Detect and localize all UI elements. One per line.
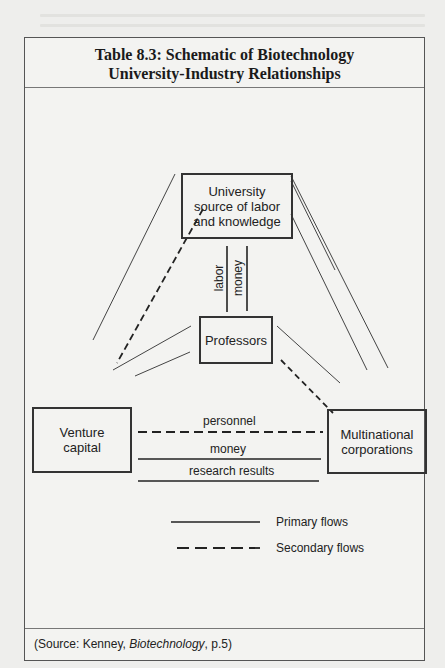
source-prefix: (Source: Kenney, <box>34 637 129 651</box>
legend-secondary-label: Secondary flows <box>276 541 364 555</box>
edge-professors-multinational-primary <box>277 326 340 383</box>
figure-frame: Table 8.3: Schematic of Biotechnology Un… <box>24 37 425 661</box>
node-venture-capital-line2: capital <box>63 440 101 455</box>
source-book-title: Biotechnology <box>129 637 204 651</box>
background-text-line <box>40 14 425 17</box>
flow-label-money-horizontal: money <box>210 442 246 456</box>
flow-label-research-results: research results <box>189 464 274 478</box>
flow-label-labor: labor <box>212 258 226 298</box>
node-professors: Professors <box>199 316 273 364</box>
node-university: University source of labor and knowledge <box>181 173 293 239</box>
flow-label-money-vertical: money <box>231 256 245 300</box>
legend-primary-label: Primary flows <box>276 515 348 529</box>
node-university-line3: and knowledge <box>193 214 280 229</box>
edge-professors-multinational-secondary <box>281 360 333 413</box>
edge-university-multinational-3 <box>291 176 388 368</box>
node-multinational-line1: Multinational <box>341 427 414 442</box>
node-multinational-line2: corporations <box>341 442 413 457</box>
figure-source: (Source: Kenney, Biotechnology, p.5) <box>25 628 424 660</box>
node-venture-capital-line1: Venture <box>60 425 105 440</box>
edge-professors-venture-2 <box>135 352 190 376</box>
node-multinational: Multinational corporations <box>327 409 427 474</box>
edge-university-multinational-1 <box>291 181 335 270</box>
edge-university-venture-primary <box>93 174 175 340</box>
flow-label-personnel: personnel <box>203 414 256 428</box>
edge-university-multinational-2 <box>291 214 367 370</box>
node-professors-label: Professors <box>205 333 267 348</box>
node-university-line1: University <box>208 184 265 199</box>
background-text-line <box>40 24 425 27</box>
node-university-line2: source of labor <box>194 199 280 214</box>
node-venture-capital: Venture capital <box>32 407 132 473</box>
source-suffix: , p.5) <box>205 637 232 651</box>
